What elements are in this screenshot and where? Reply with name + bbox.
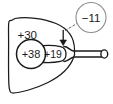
dashed-leader-line-icon xyxy=(65,23,79,32)
cortex-power-label: +19 xyxy=(44,48,62,60)
channel-upper-wall xyxy=(64,47,102,52)
callout-power-label: −11 xyxy=(82,12,101,24)
nucleus-power-label: +38 xyxy=(22,48,41,60)
channel-lower-wall xyxy=(64,57,102,62)
optical-power-diagram: +30 +38 +19 −11 xyxy=(0,0,113,104)
down-arrow-icon xyxy=(60,31,67,46)
diagram-canvas: +30 +38 +19 −11 xyxy=(0,0,113,104)
ring-terminal-icon xyxy=(101,50,108,58)
cornea-power-label: +30 xyxy=(18,29,38,41)
